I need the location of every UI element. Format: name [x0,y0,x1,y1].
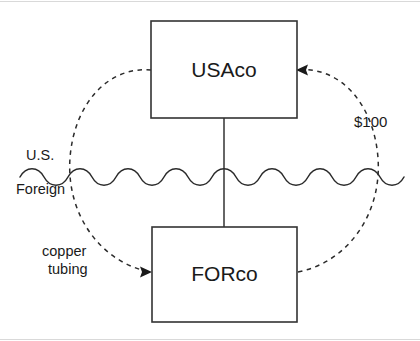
forco-label: FORco [191,262,258,285]
usaco-label: USAco [191,58,256,81]
transfer-pricing-diagram: USAco FORco U.S. Foreign copper tubing $… [0,0,420,341]
copper-tubing-label-line1: copper [42,243,87,259]
country-border-wave [20,169,404,186]
foreign-side-label: Foreign [16,181,65,197]
payment-arc [298,70,378,272]
copper-tubing-arc [70,70,151,272]
copper-tubing-arrowhead-icon [140,267,152,278]
us-side-label: U.S. [26,147,54,163]
diagram-canvas: USAco FORco U.S. Foreign copper tubing $… [0,0,420,341]
payment-amount-label: $100 [354,113,387,130]
copper-tubing-label-line2: tubing [48,261,88,277]
